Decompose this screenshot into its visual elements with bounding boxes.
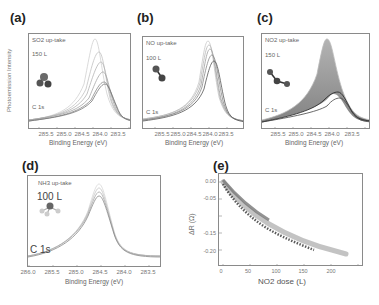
panel-e-xlabel: NO2 dose (L) (258, 277, 306, 286)
panel-c-dose: 150 L (265, 52, 280, 58)
panel-a-curves (29, 34, 131, 129)
panel-c-gas: NO2 up-take (265, 37, 299, 43)
panel-e-ytick: -0.05 (192, 195, 216, 201)
panel-c-label: (c) (257, 10, 273, 25)
panel-b-gas: NO up-take (146, 40, 177, 46)
panel-b-xtick: 284.0 (202, 131, 217, 137)
panel-b-xtick: 284.5 (186, 131, 201, 137)
no-molecule-icon (153, 66, 166, 82)
panel-e-ytick: -0.20 (192, 248, 216, 254)
panel-a-label: (a) (10, 10, 26, 25)
panel-d-xtick: 285.0 (68, 269, 83, 275)
panel-a-xtick: 284.5 (74, 131, 89, 137)
panel-b-xtick: 283.5 (218, 131, 233, 137)
panel-d-xtick: 286.0 (20, 269, 35, 275)
panel-d-xtick: 284.5 (92, 269, 107, 275)
panel-d-core: C 1s (30, 244, 51, 255)
panel-d-xlabel: Binding Energy (eV) (65, 278, 123, 285)
panel-c-xlabel: Binding Energy (eV) (285, 139, 343, 146)
panel-b-curves (143, 37, 244, 129)
panel-c-xtick: 285.0 (288, 131, 303, 137)
panel-a-xtick: 284.0 (92, 131, 107, 137)
panel-c-xtick: 283.5 (344, 131, 359, 137)
panel-e-xtick: 100 (271, 268, 280, 274)
panel-b-dose: 100 L (146, 55, 161, 61)
panel-e-xtick: 50 (245, 268, 251, 274)
panel-c-plot: NO2 up-take 150 L C 1s (261, 33, 370, 129)
panel-c-xtick: 285.5 (270, 131, 285, 137)
panel-b-core: C 1s (146, 109, 158, 115)
panel-b-plot: NO up-take 100 L C 1s (142, 36, 244, 129)
panel-b-xtick: 285.5 (154, 131, 169, 137)
nh3-molecule-icon (40, 203, 61, 217)
series-light (223, 182, 346, 254)
panel-a-xtick: 283.5 (110, 131, 125, 137)
panel-d-xtick: 284.0 (116, 269, 131, 275)
panel-e-plot (218, 173, 363, 266)
panel-c-core: C 1s (265, 107, 277, 113)
panel-e-xtick: 0 (219, 268, 222, 274)
panel-c-xtick: 284.5 (306, 131, 321, 137)
panel-d-dose: 100 L (37, 191, 62, 202)
panel-a-plot: SO2 up-take 150 L C 1s (28, 33, 131, 129)
panel-e-xtick: 150 (298, 268, 307, 274)
panel-b-xlabel: Binding Energy (eV) (165, 139, 223, 146)
panel-d-plot: NH3 up-take 100 L C 1s (27, 175, 161, 267)
panel-a-xtick: 285.0 (56, 131, 71, 137)
panel-b-label: (b) (137, 10, 154, 25)
panel-d-xtick: 283.5 (140, 269, 155, 275)
panel-a-xlabel: Binding Energy (eV) (49, 139, 107, 146)
panel-a-xtick: 285.5 (38, 131, 53, 137)
panel-e-label: (e) (213, 158, 229, 173)
panel-a-gas: SO2 up-take (32, 37, 66, 43)
panel-e-scatter (219, 174, 363, 266)
panel-c-curves (262, 34, 370, 129)
panel-a-ylabel: Photoemission Intensity (6, 49, 12, 112)
panel-e-xtick: 200 (326, 268, 335, 274)
panel-c-xtick: 284.0 (324, 131, 339, 137)
panel-a-core: C 1s (32, 104, 44, 110)
so2-molecule-icon (37, 73, 52, 88)
panel-b-xtick: 285.0 (170, 131, 185, 137)
panel-e-ytick: -0.15 (192, 230, 216, 236)
panel-a-dose: 150 L (32, 51, 47, 57)
panel-d-xtick: 285.5 (44, 269, 59, 275)
panel-e-ytick: 0.00 (192, 178, 216, 184)
no2-molecule-icon (267, 69, 290, 87)
panel-d-label: (d) (22, 158, 39, 173)
panel-d-gas: NH3 up-take (38, 180, 72, 186)
